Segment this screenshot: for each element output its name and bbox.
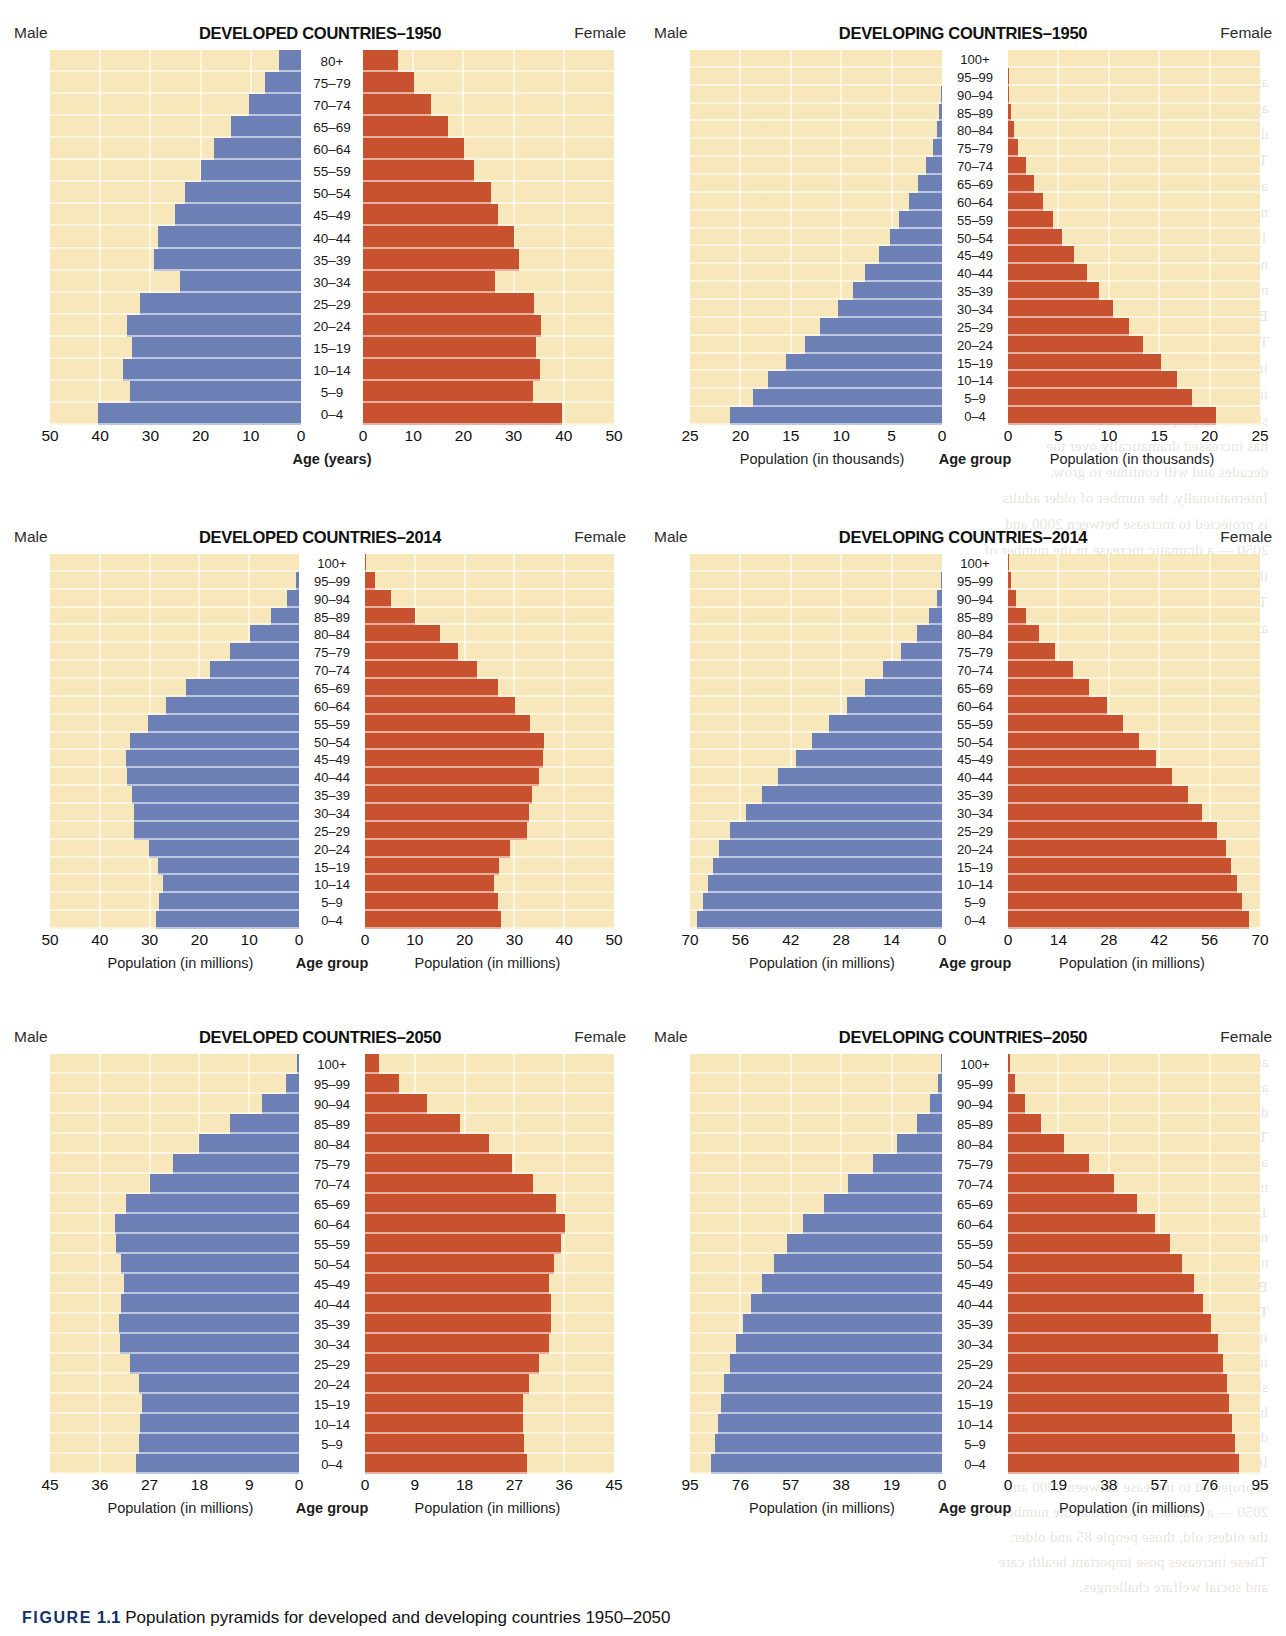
female-bar-row — [365, 661, 614, 679]
male-bar-row — [690, 318, 942, 336]
male-bar-row — [690, 389, 942, 407]
axis-caption-row: Population (in millions)Age groupPopulat… — [0, 955, 640, 979]
x-axis-tick-right: 70 — [1251, 931, 1268, 949]
female-bar-row — [365, 572, 614, 590]
female-bar-row — [365, 840, 614, 858]
female-bar-row — [1008, 175, 1260, 193]
male-bar-row — [50, 1314, 299, 1334]
x-axis-tick-left: 0 — [938, 1476, 947, 1494]
age-group-label: 20–24 — [299, 1378, 365, 1391]
male-bar-row — [690, 157, 942, 175]
chart-title: DEVELOPING COUNTRIES–1950 — [839, 24, 1087, 43]
female-bar-row — [1008, 875, 1260, 893]
male-bar-row — [50, 1394, 299, 1414]
center-axis-label: Age group — [939, 451, 1012, 467]
age-group-label: 70–74 — [942, 1178, 1008, 1191]
x-axis-tick-left: 15 — [782, 427, 799, 445]
female-bar — [365, 1374, 529, 1394]
x-axis-tick-right: 10 — [1100, 427, 1117, 445]
x-axis-tick-right: 50 — [605, 931, 622, 949]
male-bar-row — [690, 407, 942, 425]
female-bar-row — [1008, 1194, 1260, 1214]
male-bar-row — [690, 50, 942, 68]
female-bar-row — [1008, 121, 1260, 139]
x-axis-tick-right: 14 — [1050, 931, 1067, 949]
female-bar-row — [365, 625, 614, 643]
male-bar-row — [690, 1094, 942, 1114]
female-bar-row — [1008, 211, 1260, 229]
male-bar-row — [50, 337, 301, 359]
age-group-label: 5–9 — [942, 1438, 1008, 1451]
male-bar — [142, 1394, 299, 1414]
chart-panel-developed-1950: MaleDEVELOPED COUNTRIES–1950Female80+75–… — [0, 0, 640, 510]
x-axis: 5040302010001020304050 — [0, 929, 640, 955]
x-axis-tick-right: 0 — [1004, 931, 1013, 949]
female-bar-row — [363, 293, 614, 315]
center-axis-label: Age group — [939, 955, 1012, 971]
female-bar-row — [365, 1054, 614, 1074]
female-bar-row — [1008, 1314, 1260, 1334]
male-bar-row — [50, 1254, 299, 1274]
female-side-label: Female — [1220, 1028, 1272, 1046]
female-bar-row — [365, 1094, 614, 1114]
female-side-label: Female — [574, 528, 626, 546]
female-bar-row — [365, 768, 614, 786]
x-axis-label-left: Population (in millions) — [108, 955, 254, 971]
female-bar — [1008, 1174, 1114, 1194]
axis-caption-row: Age (years) — [0, 451, 640, 475]
x-axis: 5040302010001020304050 — [0, 425, 640, 451]
female-bar-row — [1008, 768, 1260, 786]
female-bar — [1008, 1054, 1010, 1074]
center-axis-label: Age group — [296, 1500, 369, 1516]
female-bar-row — [1008, 1094, 1260, 1114]
male-bar — [286, 1074, 299, 1094]
female-bar-row — [365, 1394, 614, 1414]
age-group-label: 90–94 — [942, 1098, 1008, 1111]
female-bar-row — [365, 858, 614, 876]
male-bar-row — [690, 1114, 942, 1134]
male-bar — [873, 1154, 942, 1174]
age-group-label: 55–59 — [299, 718, 365, 731]
x-axis-tick-left: 0 — [938, 427, 947, 445]
male-bar-row — [50, 1274, 299, 1294]
female-bar-row — [363, 182, 614, 204]
male-bar-row — [50, 271, 301, 293]
male-bar-row — [50, 768, 299, 786]
x-axis-tick-left: 56 — [732, 931, 749, 949]
age-group-label: 15–19 — [942, 861, 1008, 874]
female-bar-row — [363, 381, 614, 403]
female-bar — [1008, 1374, 1227, 1394]
male-side-label: Male — [654, 24, 688, 42]
male-bar — [199, 1134, 299, 1154]
male-bar-row — [690, 1274, 942, 1294]
x-axis-tick-right: 0 — [361, 931, 370, 949]
male-bar-row — [690, 768, 942, 786]
female-bar — [365, 1434, 524, 1454]
age-group-label: 70–74 — [942, 160, 1008, 173]
male-bar-row — [50, 1134, 299, 1154]
male-bar-row — [690, 590, 942, 608]
female-bar — [365, 1314, 551, 1334]
male-bar-row — [690, 121, 942, 139]
female-bar-row — [1008, 1234, 1260, 1254]
x-axis-tick-left: 20 — [732, 427, 749, 445]
x-axis-tick-left: 28 — [833, 931, 850, 949]
age-group-label: 75–79 — [942, 142, 1008, 155]
x-axis-tick-left: 0 — [295, 1476, 304, 1494]
female-bar-row — [365, 786, 614, 804]
male-bar-row — [690, 229, 942, 247]
male-bar — [175, 204, 301, 226]
male-side-label: Male — [14, 1028, 48, 1046]
male-bar — [139, 1374, 299, 1394]
x-axis-tick-left: 19 — [883, 1476, 900, 1494]
age-group-label: 70–74 — [942, 664, 1008, 677]
female-bar — [363, 293, 534, 315]
female-plot-half — [365, 1054, 614, 1474]
female-bar-row — [1008, 68, 1260, 86]
age-group-label: 0–4 — [942, 914, 1008, 927]
female-bar — [363, 138, 464, 160]
female-bar-row — [1008, 86, 1260, 104]
age-group-label: 40–44 — [301, 232, 363, 246]
female-bar-row — [363, 359, 614, 381]
male-side-label: Male — [14, 24, 48, 42]
